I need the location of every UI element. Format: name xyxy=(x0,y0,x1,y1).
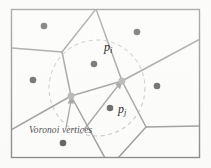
voronoi-vertex-marker xyxy=(119,78,126,85)
site-label-pi-subscript: i xyxy=(110,45,112,55)
voronoi-diagram-canvas xyxy=(0,0,211,168)
site-label-pj-subscript: j xyxy=(124,107,126,117)
site-dot-pi xyxy=(91,61,98,68)
site-label-pi: pi xyxy=(104,41,112,55)
site-dot xyxy=(41,23,48,30)
site-dot xyxy=(30,77,37,84)
site-dot xyxy=(60,140,67,147)
site-label-pj: pj xyxy=(118,103,126,117)
site-dot-pj xyxy=(107,105,114,112)
voronoi-vertices-label: Voronoi vertices xyxy=(29,126,92,136)
voronoi-vertex-marker xyxy=(68,93,75,100)
voronoi-figure: pi pj Voronoi vertices xyxy=(0,0,211,168)
site-dot xyxy=(134,29,141,36)
voronoi-edge xyxy=(146,126,200,127)
site-dot xyxy=(154,83,161,90)
